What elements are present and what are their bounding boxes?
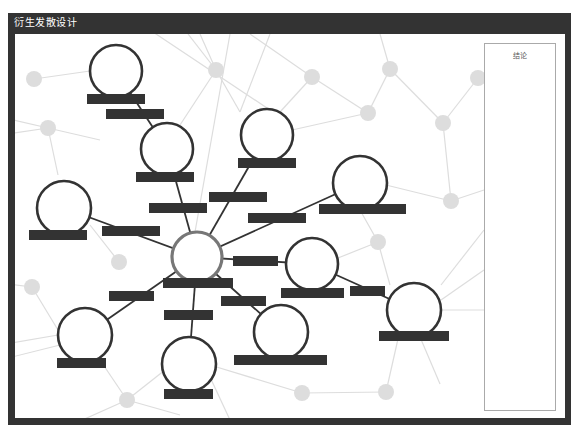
background-network-node: [24, 279, 40, 295]
background-network-node: [443, 193, 459, 209]
idea-node-circle[interactable]: [387, 283, 441, 337]
background-link-line: [441, 230, 484, 285]
conclusion-title: 结论: [485, 50, 555, 60]
background-network-node: [294, 385, 310, 401]
background-network-node: [111, 254, 127, 270]
edge-label-box[interactable]: [109, 291, 154, 301]
background-link-line: [292, 113, 368, 130]
background-network-node: [119, 392, 135, 408]
node-label-box[interactable]: [29, 230, 87, 240]
idea-node-circle[interactable]: [333, 156, 387, 210]
edge-label-box[interactable]: [149, 203, 207, 213]
background-link-line: [302, 392, 386, 393]
edge-label-box[interactable]: [164, 310, 213, 320]
background-link-line: [390, 69, 443, 123]
idea-node-circle[interactable]: [254, 305, 308, 359]
background-link-line: [420, 337, 440, 384]
background-link-line: [312, 77, 368, 113]
background-link-line: [386, 185, 451, 201]
central-node-circle[interactable]: [172, 232, 222, 282]
edge-label-box[interactable]: [350, 286, 385, 296]
node-label-box[interactable]: [164, 389, 213, 399]
background-link-line: [0, 345, 60, 360]
edge-label-box[interactable]: [106, 109, 164, 119]
idea-node-circle[interactable]: [286, 238, 338, 290]
background-link-line: [443, 123, 451, 201]
background-network-node: [382, 61, 398, 77]
idea-node-circle[interactable]: [58, 308, 112, 362]
background-network-node: [370, 234, 386, 250]
idea-node-circle[interactable]: [90, 45, 142, 97]
background-network-node: [435, 115, 451, 131]
edge-label-box[interactable]: [248, 213, 306, 223]
node-label-box[interactable]: [87, 94, 145, 104]
central-node-label-box[interactable]: [163, 278, 233, 288]
background-link-line: [0, 335, 58, 345]
background-network-node: [40, 120, 56, 136]
background-network-node: [208, 62, 224, 78]
background-link-line: [210, 365, 302, 393]
idea-node-circle[interactable]: [37, 181, 91, 235]
background-network-node: [304, 69, 320, 85]
edge-label-box[interactable]: [233, 256, 278, 266]
edge-label-box[interactable]: [209, 192, 267, 202]
edge-label-box[interactable]: [102, 226, 160, 236]
edge-label-box[interactable]: [221, 296, 266, 306]
background-link-line: [60, 400, 127, 430]
node-label-box[interactable]: [319, 204, 406, 214]
node-label-box[interactable]: [379, 331, 449, 341]
idea-node-circle[interactable]: [162, 337, 216, 391]
background-link-line: [48, 128, 100, 140]
background-network-node: [26, 71, 42, 87]
background-link-line: [443, 78, 478, 123]
node-label-box[interactable]: [281, 288, 344, 298]
background-link-line: [34, 71, 90, 79]
node-label-box[interactable]: [57, 358, 106, 368]
background-link-line: [160, 20, 200, 30]
background-link-line: [250, 34, 312, 77]
idea-node-circle[interactable]: [141, 123, 193, 175]
node-label-box[interactable]: [234, 355, 327, 365]
idea-node-circle[interactable]: [241, 109, 293, 161]
background-link-line: [441, 270, 484, 300]
background-network-node: [360, 105, 376, 121]
node-label-box[interactable]: [136, 172, 194, 182]
node-label-box[interactable]: [238, 158, 296, 168]
background-link-line: [127, 400, 180, 415]
background-link-line: [180, 70, 216, 125]
background-network-node: [378, 384, 394, 400]
conclusion-panel[interactable]: 结论: [484, 43, 556, 411]
